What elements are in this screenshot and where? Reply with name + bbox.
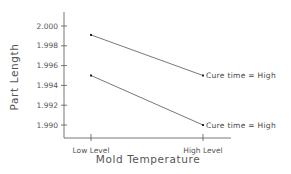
y-tick-label: 1.998 [37,41,59,50]
data-point [202,124,204,126]
series-line: Cure time = High [90,34,276,80]
data-point [90,34,92,36]
y-tick-label: 1.996 [37,61,59,70]
x-axis-title: Mold Temperature [96,153,201,165]
interaction-plot: 2.0001.9981.9961.9941.9921.990 Low Level… [0,0,291,174]
series-label: Cure time = High [206,71,276,80]
data-point [90,75,92,77]
x-ticks: Low LevelHigh Level [73,134,223,155]
y-tick-label: 2.000 [37,22,59,31]
y-axis-title: Part Length [8,44,20,111]
series-label: Cure time = High [206,121,276,130]
y-tick-label: 1.990 [37,121,59,130]
y-tick-label: 1.994 [37,81,59,90]
series-lines: Cure time = HighCure time = High [90,34,276,130]
y-tick-label: 1.992 [37,101,59,110]
data-point [202,75,204,77]
y-ticks: 2.0001.9981.9961.9941.9921.990 [37,22,67,130]
series-line: Cure time = High [90,75,276,130]
